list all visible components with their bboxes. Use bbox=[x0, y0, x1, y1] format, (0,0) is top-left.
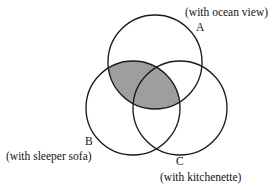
set-c-description: (with kitchenette) bbox=[160, 171, 241, 183]
venn-diagram-figure: (with ocean view) A B (with sleeper sofa… bbox=[0, 0, 279, 190]
set-b-description: (with sleeper sofa) bbox=[6, 150, 92, 162]
set-a-letter: A bbox=[196, 21, 204, 33]
set-c-letter: C bbox=[176, 155, 184, 167]
set-b-letter: B bbox=[85, 135, 93, 147]
set-a-description: (with ocean view) bbox=[185, 6, 268, 18]
